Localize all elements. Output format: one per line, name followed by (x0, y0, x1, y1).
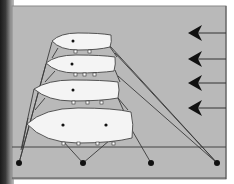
anchor-1 (16, 160, 22, 166)
hull (52, 33, 111, 50)
mast-dot (104, 123, 107, 126)
mast-dot (72, 89, 75, 92)
anchor-3 (148, 160, 154, 166)
mast-dot (72, 40, 75, 43)
diagram-canvas (0, 0, 234, 184)
mast-dot (61, 123, 64, 126)
mooring-diagram (0, 0, 234, 184)
anchor-2 (80, 160, 86, 166)
mast-dot (71, 63, 74, 66)
anchor-4 (214, 160, 220, 166)
